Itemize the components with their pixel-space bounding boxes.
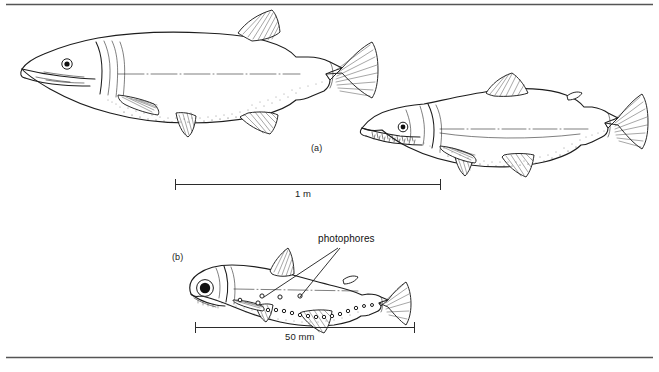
figure-root: (a) 1 m (b) photophores 50 mm xyxy=(0,0,659,372)
photophores-label: photophores xyxy=(318,233,375,244)
salmon-pupil xyxy=(401,125,406,130)
pike-illustration xyxy=(21,10,378,137)
scale-label-50mm: 50 mm xyxy=(285,331,315,342)
lanternfish-illustration xyxy=(190,248,411,333)
salmon-adipose-fin xyxy=(567,92,582,100)
pike-dorsal-fin xyxy=(238,10,280,41)
pike-anal-fin xyxy=(240,112,278,134)
panel-label-a: (a) xyxy=(311,143,322,153)
lanternfish-pupil xyxy=(200,283,210,293)
lanternfish-adipose-fin xyxy=(343,276,358,284)
salmon-illustration xyxy=(360,73,648,177)
salmon-dorsal-fin xyxy=(486,73,528,96)
figure-illustration xyxy=(0,0,659,372)
panel-label-b: (b) xyxy=(172,252,183,262)
pike-pupil xyxy=(64,61,69,66)
scale-label-1m: 1 m xyxy=(295,188,311,199)
lanternfish-dorsal-fin xyxy=(270,248,294,276)
